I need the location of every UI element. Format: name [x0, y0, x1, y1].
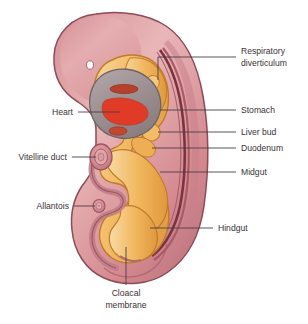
label-cloacal-membrane-line2: membrane: [105, 300, 146, 310]
label-midgut: Midgut: [241, 167, 267, 177]
heart-chamber-upper: [110, 84, 138, 93]
diagram-canvas: Respiratory diverticulum Stomach Liver b…: [0, 0, 308, 324]
label-cloacal-membrane-line1: Cloacal: [112, 288, 141, 298]
label-duodenum: Duodenum: [241, 143, 283, 153]
label-respiratory-diverticulum-line2: diverticulum: [241, 58, 287, 68]
label-respiratory-diverticulum-line1: Respiratory: [241, 46, 286, 56]
label-allantois: Allantois: [37, 201, 69, 211]
embryo-gut-diagram: Respiratory diverticulum Stomach Liver b…: [0, 0, 308, 324]
label-vitelline-duct: Vitelline duct: [18, 152, 67, 162]
label-stomach: Stomach: [241, 105, 275, 115]
label-heart: Heart: [52, 107, 74, 117]
label-liver-bud: Liver bud: [241, 127, 277, 137]
eye-spot: [87, 61, 94, 69]
heart: [90, 69, 161, 138]
heart-chamber-lower: [109, 127, 127, 135]
label-hindgut: Hindgut: [218, 223, 248, 233]
